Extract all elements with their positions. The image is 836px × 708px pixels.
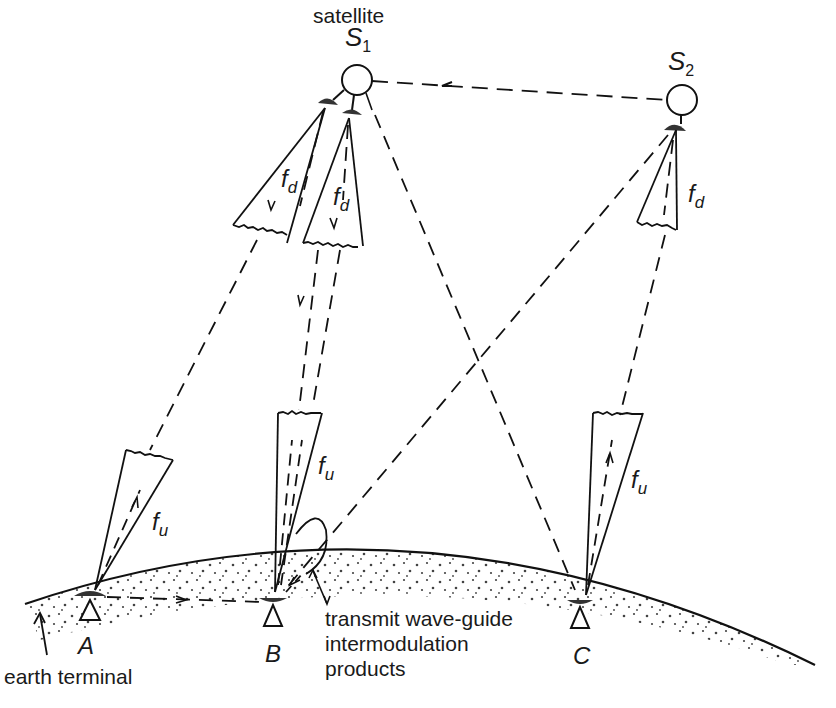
terminal-c-label: C (573, 642, 590, 670)
fu-label-a: fu (152, 508, 168, 541)
earth-terminal-b (259, 598, 287, 626)
path-s1-to-b-2 (313, 250, 340, 405)
path-s1-to-b-1 (299, 250, 318, 410)
fu-label-b: fu (318, 452, 334, 485)
downlink-beam-s2 (637, 130, 677, 230)
satellite-s2 (664, 85, 697, 131)
arrow-down-b (298, 295, 304, 305)
satellite-s1 (318, 65, 372, 115)
fd-label-1: fd (281, 165, 297, 198)
fd-label-2: fd (333, 183, 349, 216)
uplink-beam-c (586, 412, 643, 595)
path-s1-to-a (150, 240, 257, 450)
s1-label: S1 (345, 22, 371, 56)
terminal-b-label: B (265, 640, 281, 668)
waveguide-label-line2: intermodulation (325, 631, 469, 656)
earth-terminal-label: earth terminal (4, 664, 132, 689)
path-s1-to-c (375, 115, 575, 590)
dashed-propagation-paths (107, 115, 668, 602)
fd-label-s2: fd (688, 180, 704, 213)
s2-label: S2 (668, 46, 694, 80)
inter-satellite-link (372, 81, 667, 100)
waveguide-label-line3: products (325, 656, 406, 681)
terminal-a-label: A (78, 632, 94, 660)
satellite-interference-diagram (0, 0, 836, 708)
s1-dish-antenna-2 (342, 109, 362, 115)
waveguide-label-line1: transmit wave-guide (325, 606, 513, 631)
path-s2-to-c (620, 235, 665, 415)
fu-label-c: fu (631, 466, 647, 499)
